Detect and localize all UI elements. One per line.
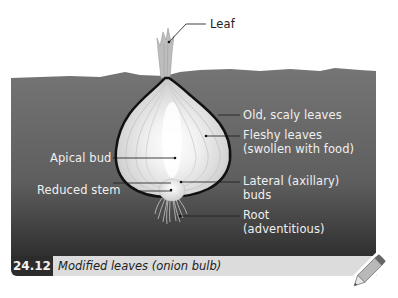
figure-caption: 24.12 Modified leaves (onion bulb) (11, 256, 377, 276)
label-root-sub: (adventitious) (243, 222, 325, 236)
label-fleshy-leaves-sub: (swollen with food) (243, 142, 354, 156)
label-lateral-buds-sub: buds (243, 188, 271, 202)
label-lateral-buds: Lateral (axillary) (243, 174, 339, 188)
label-leaf: Leaf (210, 17, 235, 31)
pencil-icon[interactable] (344, 246, 394, 296)
onion-bulb-diagram: Leaf Old, scaly leaves Fleshy leaves (sw… (0, 0, 398, 298)
label-apical-bud: Apical bud (50, 151, 111, 165)
label-root: Root (243, 208, 269, 222)
label-fleshy-leaves: Fleshy leaves (243, 128, 322, 142)
caption-text: Modified leaves (onion bulb) (58, 256, 221, 276)
figure-number: 24.12 (11, 256, 53, 276)
label-reduced-stem: Reduced stem (37, 183, 120, 197)
leader-lines (169, 24, 206, 42)
leaf-shoot (157, 28, 174, 78)
label-old-scaly-leaves: Old, scaly leaves (243, 108, 342, 122)
